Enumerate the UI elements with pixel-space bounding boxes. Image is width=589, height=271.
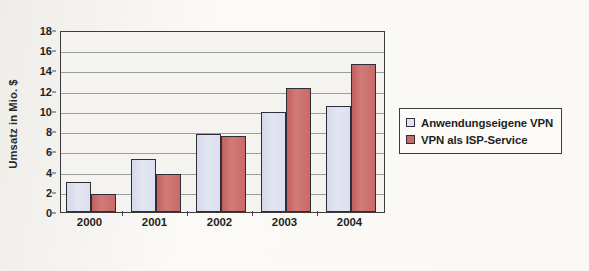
- y-axis-tick-mark: [52, 172, 56, 173]
- y-axis-tick-label: 18: [40, 25, 52, 37]
- legend-label: VPN als ISP-Service: [421, 134, 527, 146]
- y-axis-title: Umsatz in Mio. $: [2, 36, 24, 211]
- bar-2004-series-1: [351, 64, 376, 212]
- legend-swatch-icon: [406, 118, 415, 127]
- x-axis-tick-labels: 20002001200220032004: [60, 216, 385, 236]
- y-axis-tick-mark: [52, 31, 56, 32]
- y-axis-tick-labels: 024681012141618: [24, 31, 56, 213]
- x-axis-tick-label: 2003: [272, 216, 297, 228]
- y-axis-tick-mark: [52, 51, 56, 52]
- bar-chart-figure: Umsatz in Mio. $ 024681012141618 2000200…: [0, 0, 589, 271]
- legend-label: Anwendungseigene VPN: [421, 117, 553, 129]
- legend-item: Anwendungseigene VPN: [406, 114, 553, 131]
- y-axis-tick-mark: [52, 91, 56, 92]
- y-axis-tick-label: 14: [40, 65, 52, 77]
- legend-item: VPN als ISP-Service: [406, 131, 553, 148]
- x-axis-tick-label: 2002: [207, 216, 232, 228]
- y-axis-tick-mark: [52, 71, 56, 72]
- y-axis-tick-mark: [52, 152, 56, 153]
- x-axis-tick-mark: [122, 211, 123, 216]
- bar-2004-series-0: [326, 106, 351, 212]
- x-axis-tick-mark: [317, 211, 318, 216]
- chart-legend: Anwendungseigene VPNVPN als ISP-Service: [399, 108, 562, 154]
- y-axis-tick-label: 12: [40, 86, 52, 98]
- y-axis-tick-mark: [52, 111, 56, 112]
- bars-layer: [61, 32, 384, 212]
- y-axis-tick-mark: [52, 132, 56, 133]
- x-axis-tick-label: 2000: [77, 216, 102, 228]
- x-axis-tick-label: 2004: [337, 216, 362, 228]
- x-axis-tick-label: 2001: [142, 216, 167, 228]
- bar-group: [61, 32, 386, 212]
- y-axis-tick-mark: [52, 213, 56, 214]
- y-axis-title-text: Umsatz in Mio. $: [7, 79, 19, 168]
- x-axis-tick-mark: [187, 211, 188, 216]
- legend-swatch-icon: [406, 135, 415, 144]
- y-axis-tick-label: 16: [40, 45, 52, 57]
- x-axis-tick-mark: [252, 211, 253, 216]
- y-axis-tick-label: 10: [40, 106, 52, 118]
- y-axis-tick-mark: [52, 192, 56, 193]
- plot-area: [60, 31, 385, 213]
